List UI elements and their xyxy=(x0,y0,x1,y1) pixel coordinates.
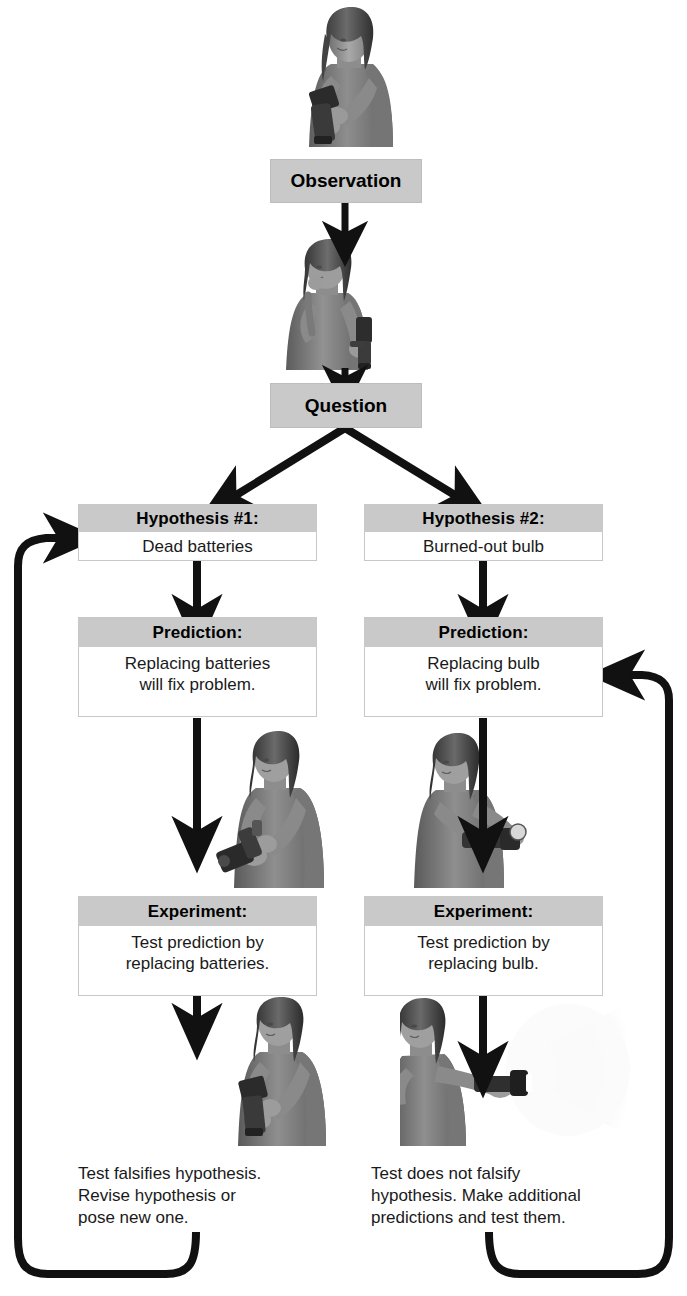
illustration-woman-flashlight-still-dark xyxy=(214,996,342,1146)
hypothesis-1-body: Dead batteries xyxy=(79,532,316,561)
illustration-woman-thinking-with-flashlight xyxy=(264,237,404,370)
hypothesis-1-header: Hypothesis #1: xyxy=(79,505,316,532)
experiment-1-header: Experiment: xyxy=(79,897,316,926)
node-observation[interactable]: Observation xyxy=(270,159,422,203)
node-experiment-2[interactable]: Experiment: Test prediction by replacing… xyxy=(364,896,603,996)
node-prediction-2[interactable]: Prediction: Replacing bulb will fix prob… xyxy=(364,617,603,717)
node-hypothesis-1[interactable]: Hypothesis #1: Dead batteries xyxy=(78,504,317,561)
edge-question-to-hypothesis-2 xyxy=(345,428,458,497)
experiment-2-body: Test prediction by replacing bulb. xyxy=(365,926,602,976)
hypothesis-2-body: Burned-out bulb xyxy=(365,532,602,561)
node-experiment-1[interactable]: Experiment: Test prediction by replacing… xyxy=(78,896,317,996)
observation-label: Observation xyxy=(291,170,402,192)
prediction-1-header: Prediction: xyxy=(79,618,316,647)
experiment-1-body: Test prediction by replacing batteries. xyxy=(79,926,316,976)
node-hypothesis-2[interactable]: Hypothesis #2: Burned-out bulb xyxy=(364,504,603,561)
node-prediction-1[interactable]: Prediction: Replacing batteries will fix… xyxy=(78,617,317,717)
node-question[interactable]: Question xyxy=(270,383,422,428)
prediction-1-body: Replacing batteries will fix problem. xyxy=(79,647,316,697)
experiment-2-header: Experiment: xyxy=(365,897,602,926)
node-result-2: Test does not falsify hypothesis. Make a… xyxy=(371,1163,646,1229)
prediction-2-body: Replacing bulb will fix problem. xyxy=(365,647,602,697)
illustration-woman-replacing-bulb xyxy=(400,728,540,888)
prediction-2-header: Prediction: xyxy=(365,618,602,647)
edge-question-to-hypothesis-1 xyxy=(233,428,345,497)
node-result-1: Test falsifies hypothesis. Revise hypoth… xyxy=(78,1163,338,1229)
question-label: Question xyxy=(305,395,387,417)
hypothesis-2-header: Hypothesis #2: xyxy=(365,505,602,532)
illustration-woman-flashlight-shining xyxy=(400,996,630,1146)
illustration-woman-replacing-batteries xyxy=(208,728,340,888)
scientific-method-flowchart: Observation Question Hypothesis #1: Dead… xyxy=(0,0,687,1296)
illustration-woman-shaking-flashlight xyxy=(281,4,409,147)
